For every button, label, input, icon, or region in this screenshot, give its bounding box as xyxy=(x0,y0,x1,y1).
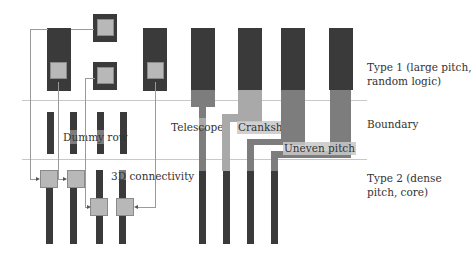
3d-connectivity-label: 3D connectivity xyxy=(111,170,194,183)
arrow-icon xyxy=(87,205,91,209)
telescope-neck xyxy=(199,107,206,171)
crankshaft-transition xyxy=(238,90,262,114)
uneven-pitch-label: Uneven pitch xyxy=(283,142,356,155)
type2-label-line1: Type 2 (dense xyxy=(367,172,442,185)
via-pad xyxy=(90,198,108,216)
type1-label-line1: Type 1 (large pitch, xyxy=(367,61,472,74)
crankshaft-neck xyxy=(222,114,230,171)
via-pad xyxy=(147,62,164,79)
type2-pillar xyxy=(46,186,53,244)
wire xyxy=(30,29,48,30)
uneven-transition xyxy=(281,90,305,140)
boundary-bottom-line xyxy=(22,159,367,160)
via-pad xyxy=(40,170,58,188)
wire xyxy=(58,82,59,179)
uneven-pillar-top xyxy=(281,28,305,90)
uneven2-neck xyxy=(271,151,278,171)
arrow-icon xyxy=(63,177,67,181)
wire xyxy=(71,29,94,30)
crankshaft-pillar-top xyxy=(238,28,262,90)
via-pad xyxy=(97,19,114,36)
arrow-icon xyxy=(134,205,138,209)
type2-label-line2: pitch, core) xyxy=(367,186,428,199)
uneven2-pillar-top xyxy=(329,28,353,90)
telescope-label: Telescope xyxy=(171,121,224,134)
wire xyxy=(85,78,95,79)
wire xyxy=(155,82,156,207)
wire xyxy=(136,207,156,208)
type2-pillar xyxy=(70,186,77,244)
wire xyxy=(30,29,31,179)
via-pad xyxy=(97,67,114,84)
arrow-icon xyxy=(36,177,40,181)
dummy-pillar xyxy=(47,112,54,154)
telescope-pillar-top xyxy=(191,28,215,90)
telescope-transition xyxy=(191,90,215,107)
via-pad xyxy=(50,62,67,79)
wire xyxy=(85,78,86,207)
uneven-neck xyxy=(247,139,254,171)
via-pad xyxy=(67,170,85,188)
uneven2-pillar-bottom xyxy=(271,171,278,244)
uneven-pillar-bottom xyxy=(247,171,254,244)
type1-block-left xyxy=(47,28,71,91)
dummy-row-label: Dummy row xyxy=(63,131,128,144)
telescope-pillar-bottom xyxy=(199,171,206,244)
type1-label-line2: random logic) xyxy=(367,75,441,88)
crankshaft-pillar-bottom xyxy=(223,171,230,244)
via-pad xyxy=(116,198,134,216)
boundary-label: Boundary xyxy=(367,118,419,131)
